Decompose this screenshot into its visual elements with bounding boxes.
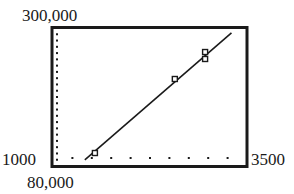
regression-line bbox=[85, 33, 232, 160]
y-tick-dot bbox=[56, 77, 58, 79]
x-tick-dot bbox=[110, 157, 112, 159]
data-point-marker bbox=[203, 56, 208, 61]
y-tick-dot bbox=[56, 65, 58, 67]
x-tick-dot bbox=[149, 157, 151, 159]
fit-line bbox=[85, 33, 232, 160]
y-tick-dot bbox=[56, 96, 58, 98]
x-tick-dot bbox=[168, 157, 170, 159]
y-tick-dot bbox=[56, 52, 58, 54]
y-tick-dot bbox=[56, 134, 58, 136]
graph-window bbox=[0, 0, 294, 194]
y-tick-dot bbox=[56, 90, 58, 92]
y-tick-dot bbox=[56, 127, 58, 129]
x-tick-dot bbox=[227, 157, 229, 159]
y-tick-dot bbox=[56, 140, 58, 142]
y-tick-dot bbox=[56, 102, 58, 104]
plot-frame bbox=[52, 28, 247, 167]
x-tick-dot bbox=[71, 157, 73, 159]
data-point-marker bbox=[172, 76, 177, 81]
x-tick-dot bbox=[91, 157, 93, 159]
y-tick-dot bbox=[56, 109, 58, 111]
y-tick-dot bbox=[56, 159, 58, 161]
y-tick-dot bbox=[56, 146, 58, 148]
y-tick-dot bbox=[56, 40, 58, 42]
x-tick-dot bbox=[207, 157, 209, 159]
y-tick-dot bbox=[56, 33, 58, 35]
x-axis-tick-dots bbox=[71, 157, 228, 159]
data-point-marker bbox=[92, 151, 97, 156]
y-tick-dot bbox=[56, 83, 58, 85]
y-tick-dot bbox=[56, 46, 58, 48]
data-point-marker bbox=[203, 50, 208, 55]
y-tick-dot bbox=[56, 58, 58, 60]
y-tick-dot bbox=[56, 121, 58, 123]
x-tick-dot bbox=[130, 157, 132, 159]
y-tick-dot bbox=[56, 115, 58, 117]
y-axis-tick-dots bbox=[56, 33, 58, 160]
y-tick-dot bbox=[56, 152, 58, 154]
y-tick-dot bbox=[56, 71, 58, 73]
x-tick-dot bbox=[188, 157, 190, 159]
